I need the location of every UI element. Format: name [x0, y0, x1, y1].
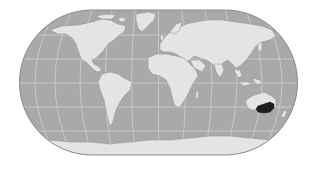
map-svg	[0, 0, 317, 174]
world-map	[0, 0, 317, 174]
